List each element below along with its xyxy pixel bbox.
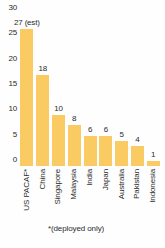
y-axis-tick-label: 15 xyxy=(0,80,17,88)
bar xyxy=(68,125,81,166)
x-axis-tick-label: Singapore xyxy=(54,169,62,205)
x-axis-tick-label: India xyxy=(86,169,94,186)
x-axis-category: India xyxy=(84,169,97,221)
x-axis-category: US PACAF* xyxy=(20,169,33,221)
bar-slot: 27 (est) xyxy=(20,14,33,166)
x-axis-tick-label: Australia xyxy=(118,169,126,199)
bar xyxy=(115,141,128,166)
bar xyxy=(99,136,112,166)
bar xyxy=(20,29,33,166)
x-axis-category: Singapore xyxy=(52,169,65,221)
bar-slot: 1 xyxy=(147,14,160,166)
bar-value-label: 4 xyxy=(135,136,139,144)
x-axis-category: Japan xyxy=(99,169,112,221)
chart-footnote: *(deployed only) xyxy=(0,224,152,233)
bar-slot: 5 xyxy=(115,14,128,166)
y-axis-tick-label: 25 xyxy=(0,29,17,37)
bar-value-label: 18 xyxy=(38,65,47,73)
x-axis-category: China xyxy=(36,169,49,221)
x-axis-tick-label: Japan xyxy=(102,169,110,190)
bar-slot: 8 xyxy=(68,14,81,166)
bar-slot: 6 xyxy=(84,14,97,166)
x-axis-tick-label: US PACAF* xyxy=(23,169,31,211)
y-axis-tick-label: 10 xyxy=(0,105,17,113)
bar xyxy=(52,115,65,166)
x-axis-tick-label: Malaysia xyxy=(70,169,78,200)
x-axis-category: Pakistan xyxy=(131,169,144,221)
y-axis-tick-label: 0 xyxy=(0,156,17,164)
x-axis: US PACAF*ChinaSingaporeMalaysiaIndiaJapa… xyxy=(19,169,161,221)
x-axis-category: Malaysia xyxy=(68,169,81,221)
x-axis-category: Australia xyxy=(115,169,128,221)
bar-value-label: 6 xyxy=(104,126,108,134)
bar-value-label: 8 xyxy=(72,115,76,123)
bar-slot: 10 xyxy=(52,14,65,166)
x-axis-tick-label: China xyxy=(39,169,47,189)
bar-value-label: 1 xyxy=(151,151,155,159)
bar-value-label: 6 xyxy=(88,126,92,134)
bar-value-label: 5 xyxy=(119,131,123,139)
x-axis-tick-label: Indonesia xyxy=(149,169,157,203)
y-axis-tick-label: 5 xyxy=(0,131,17,139)
plot-area: 27 (est)1810866541 xyxy=(19,14,161,166)
bar xyxy=(131,146,144,166)
bar-slot: 4 xyxy=(131,14,144,166)
y-axis-tick-label: 30 xyxy=(0,4,17,12)
y-axis: 051015202530 xyxy=(0,8,17,168)
bar-slot: 18 xyxy=(36,14,49,166)
x-axis-tick-label: Pakistan xyxy=(133,169,141,199)
y-axis-tick-label: 20 xyxy=(0,55,17,63)
bar-value-label: 10 xyxy=(54,105,63,113)
bar xyxy=(36,75,49,166)
bar xyxy=(84,136,97,166)
x-axis-category: Indonesia xyxy=(147,169,160,221)
bar xyxy=(147,161,160,166)
bar-chart: 051015202530 27 (est)1810866541 US PACAF… xyxy=(0,0,165,248)
bar-slot: 6 xyxy=(99,14,112,166)
